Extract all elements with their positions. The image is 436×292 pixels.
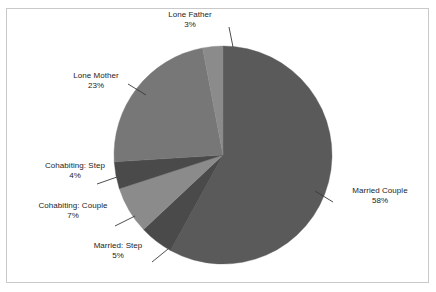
leader-line-lone-father	[229, 27, 233, 47]
pie-label-lone-mother-name: Lone Mother	[54, 71, 138, 81]
pie-label-cohabiting-step-value: 4%	[30, 171, 120, 181]
pie-label-lone-father-value: 3%	[150, 20, 230, 30]
pie-label-cohabiting-step-name: Cohabiting: Step	[30, 161, 120, 171]
pie-chart-svg	[0, 0, 436, 292]
pie-label-married-couple-name: Married Couple	[334, 186, 426, 196]
pie-slice-group	[114, 46, 332, 264]
pie-chart-figure: Lone Father 3% Lone Mother 23% Cohabitin…	[0, 0, 436, 292]
pie-label-married-couple-value: 58%	[334, 196, 426, 206]
pie-label-lone-mother-value: 23%	[54, 81, 138, 91]
pie-label-cohabiting-step: Cohabiting: Step 4%	[30, 161, 120, 180]
pie-label-lone-father-name: Lone Father	[150, 10, 230, 20]
pie-label-cohabiting-couple: Cohabiting: Couple 7%	[22, 201, 124, 220]
pie-label-married-step-value: 5%	[76, 251, 160, 261]
pie-label-married-step: Married: Step 5%	[76, 241, 160, 260]
pie-label-lone-father: Lone Father 3%	[150, 10, 230, 29]
pie-label-married-step-name: Married: Step	[76, 241, 160, 251]
pie-label-cohabiting-couple-value: 7%	[22, 211, 124, 221]
pie-label-married-couple: Married Couple 58%	[334, 186, 426, 205]
pie-label-cohabiting-couple-name: Cohabiting: Couple	[22, 201, 124, 211]
pie-label-lone-mother: Lone Mother 23%	[54, 71, 138, 90]
